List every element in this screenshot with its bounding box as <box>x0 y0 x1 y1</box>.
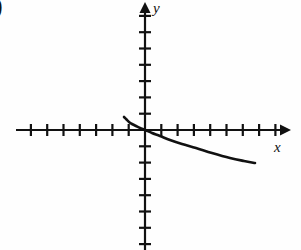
x-axis-label: x <box>274 140 281 155</box>
y-axis-label: y <box>153 1 160 16</box>
graph-figure: ) <box>0 0 301 250</box>
coordinate-plane-svg <box>0 0 301 250</box>
x-axis-arrowhead-icon <box>280 125 291 136</box>
plotted-curve <box>124 117 255 163</box>
y-axis-arrowhead-icon <box>140 2 151 13</box>
